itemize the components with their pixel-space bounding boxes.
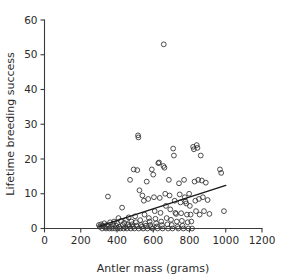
- data-point: [203, 180, 208, 185]
- data-point: [167, 193, 172, 198]
- data-point: [171, 146, 176, 151]
- y-tick-label: 20: [24, 153, 37, 165]
- data-point: [174, 219, 179, 224]
- y-axis-title: Lifetime breeding success: [4, 52, 17, 196]
- x-tick-label: 1000: [212, 234, 239, 246]
- data-point: [166, 177, 171, 182]
- data-point: [201, 195, 206, 200]
- data-point: [182, 177, 187, 182]
- data-point: [179, 211, 184, 216]
- data-point: [202, 209, 207, 214]
- x-tick-label: 800: [179, 234, 199, 246]
- data-point: [207, 212, 212, 217]
- data-point: [106, 194, 111, 199]
- x-tick-label: 0: [41, 234, 48, 246]
- data-point: [177, 181, 182, 186]
- data-point: [149, 167, 154, 172]
- y-tick-label: 10: [24, 187, 37, 199]
- data-point: [187, 204, 192, 209]
- data-point: [205, 198, 210, 203]
- data-point: [137, 188, 142, 193]
- data-point: [222, 209, 227, 214]
- data-point: [188, 212, 193, 217]
- data-point: [187, 191, 192, 196]
- y-tick-label: 40: [24, 83, 37, 95]
- data-point: [197, 212, 202, 217]
- data-point: [161, 42, 166, 47]
- data-point: [177, 192, 182, 197]
- data-point: [172, 153, 177, 158]
- x-tick-label: 600: [143, 234, 163, 246]
- y-tick-label: 50: [24, 48, 37, 60]
- x-tick-label: 200: [71, 234, 91, 246]
- y-tick-label: 0: [31, 222, 38, 234]
- data-point: [198, 153, 203, 158]
- data-point-markers: [96, 42, 226, 231]
- y-tick-label: 30: [24, 118, 37, 130]
- data-point: [146, 197, 151, 202]
- y-axis-ticks: 0102030405060: [24, 14, 44, 235]
- y-tick-label: 60: [24, 14, 37, 26]
- scatter-plot-figure: 0102030405060 020040060080010001200 Antl…: [0, 0, 282, 278]
- data-point: [144, 179, 149, 184]
- data-point: [152, 195, 157, 200]
- data-point: [138, 218, 143, 223]
- x-tick-label: 1200: [249, 234, 276, 246]
- data-point: [158, 210, 163, 215]
- data-point: [169, 217, 174, 222]
- data-point: [128, 177, 133, 182]
- data-point: [168, 207, 173, 212]
- data-point: [179, 218, 184, 223]
- x-axis-title: Antler mass (grams): [97, 262, 209, 275]
- data-point: [153, 216, 158, 221]
- data-point: [120, 205, 125, 210]
- x-tick-label: 400: [107, 234, 127, 246]
- data-point: [140, 193, 145, 198]
- data-point: [151, 172, 156, 177]
- regression-trendline: [99, 185, 226, 226]
- chart-canvas: 0102030405060 020040060080010001200 Antl…: [0, 0, 282, 278]
- data-point: [157, 196, 162, 201]
